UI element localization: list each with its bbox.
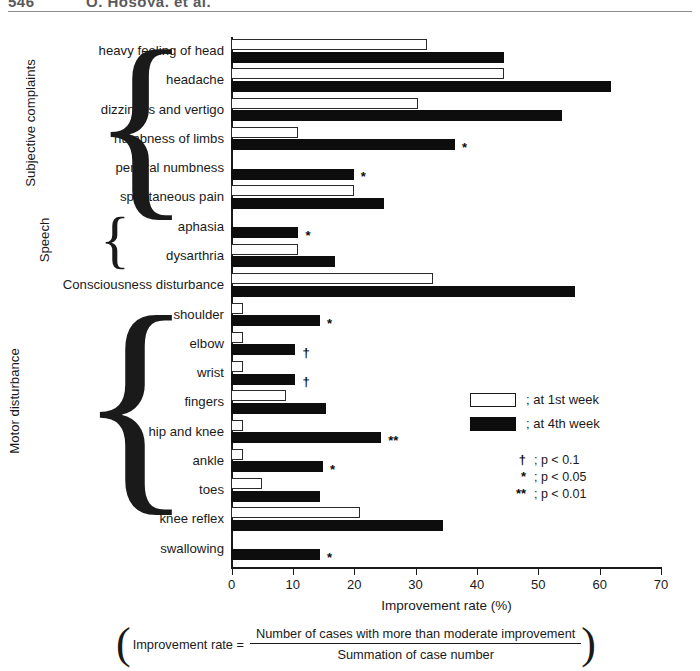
x-axis-tick-label: 50 — [531, 577, 545, 592]
bar-week1 — [231, 420, 243, 431]
x-axis-tick — [477, 568, 478, 575]
bar-week1 — [231, 68, 504, 79]
bar-week4 — [231, 315, 320, 326]
bar-week1 — [231, 390, 286, 401]
bar-row: * — [231, 156, 662, 185]
group-brace-icon: { — [92, 39, 108, 207]
formula-numerator: Number of cases with more than moderate … — [250, 626, 581, 643]
bar-week4 — [231, 52, 504, 63]
bar-week4 — [231, 520, 443, 531]
bar-week4 — [231, 139, 455, 150]
bar-row — [231, 478, 662, 507]
bar-week4 — [231, 286, 575, 297]
dagger-icon: † — [500, 452, 526, 467]
bar-week4 — [231, 432, 381, 443]
x-axis-tick-label: 0 — [228, 577, 235, 592]
significance-marker: † — [302, 346, 309, 359]
group-label: Motor disturbance — [7, 349, 22, 455]
bar-week1 — [231, 39, 427, 50]
significance-marker: * — [361, 170, 366, 183]
category-label: swallowing — [160, 540, 224, 555]
close-paren: ) — [581, 622, 596, 666]
bar-week1 — [231, 449, 243, 460]
bar-row: * — [231, 303, 662, 332]
x-axis-tick-label: 10 — [286, 577, 300, 592]
bar-week1 — [231, 303, 243, 314]
category-label: elbow — [190, 335, 224, 350]
figure-page: 546 O. Hosoya, et al. 010203040506070 Im… — [0, 0, 700, 671]
significance-marker: † — [302, 375, 309, 388]
bar-week4 — [231, 227, 298, 238]
bar-week4 — [231, 110, 562, 121]
bar-week1 — [231, 507, 360, 518]
bar-row: * — [231, 215, 662, 244]
bar-week1 — [231, 185, 354, 196]
bar-week4 — [231, 491, 320, 502]
significance-label-double-star: ; p < 0.01 — [534, 487, 586, 501]
x-axis-tick — [538, 568, 539, 575]
category-label: ankle — [192, 452, 224, 467]
significance-label-star: ; p < 0.05 — [534, 470, 586, 484]
bar-row — [231, 185, 662, 214]
bar-week1 — [231, 127, 298, 138]
group-label: Subjective complaints — [23, 59, 38, 187]
bar-week1 — [231, 244, 298, 255]
significance-legend: † ; p < 0.1 * ; p < 0.05 ** ; p < 0.01 — [500, 452, 586, 503]
bar-row — [231, 273, 662, 302]
bar-week1 — [231, 98, 418, 109]
group-label: Speech — [37, 218, 52, 263]
group-brace-icon: { — [78, 303, 94, 501]
solid-rect-swatch-icon — [470, 417, 516, 431]
legend-item-week4: ; at 4th week — [470, 416, 600, 431]
bar-week1 — [231, 361, 243, 372]
bar-week4 — [231, 461, 323, 472]
significance-marker: * — [462, 141, 467, 154]
asterisk-icon: * — [500, 469, 526, 484]
x-axis-tick — [354, 568, 355, 575]
significance-item-star: * ; p < 0.05 — [500, 469, 586, 484]
bar-row: * — [231, 537, 662, 566]
legend: ; at 1st week ; at 4th week — [470, 392, 600, 440]
open-rect-swatch-icon — [470, 393, 516, 407]
x-axis-tick — [232, 568, 233, 575]
formula-fraction: Number of cases with more than moderate … — [250, 626, 581, 662]
bar-week1 — [231, 332, 243, 343]
figure-caption-formula: ( Improvement rate = Number of cases wit… — [56, 622, 656, 666]
significance-label-dagger: ; p < 0.1 — [534, 453, 580, 467]
significance-item-dagger: † ; p < 0.1 — [500, 452, 586, 467]
significance-item-double-star: ** ; p < 0.01 — [500, 486, 586, 501]
bar-week4 — [231, 344, 295, 355]
x-axis-tick — [600, 568, 601, 575]
x-axis-tick-label: 40 — [470, 577, 484, 592]
bar-week1 — [231, 273, 433, 284]
group-brace-icon: { — [100, 215, 116, 266]
x-axis-tick-label: 30 — [408, 577, 422, 592]
significance-marker: ** — [388, 434, 398, 447]
open-paren: ( — [116, 622, 131, 666]
x-axis-title: Improvement rate (%) — [231, 598, 662, 613]
significance-marker: * — [327, 551, 332, 564]
x-axis-tick-label: 60 — [592, 577, 606, 592]
bar-row — [231, 244, 662, 273]
bar-row — [231, 98, 662, 127]
bar-row — [231, 507, 662, 536]
category-label: dysarthria — [166, 247, 224, 262]
x-axis-tick-label: 20 — [347, 577, 361, 592]
formula-denominator: Summation of case number — [331, 644, 499, 662]
bar-week4 — [231, 549, 320, 560]
legend-item-week1: ; at 1st week — [470, 392, 600, 407]
category-label: toes — [199, 482, 224, 497]
significance-marker: * — [327, 317, 332, 330]
bar-week4 — [231, 256, 335, 267]
significance-marker: * — [305, 229, 310, 242]
category-label: wrist — [197, 365, 224, 380]
bar-week1 — [231, 478, 262, 489]
bar-row: * — [231, 127, 662, 156]
bar-row: * — [231, 449, 662, 478]
formula-lead: Improvement rate = — [133, 637, 244, 652]
double-asterisk-icon: ** — [500, 486, 526, 501]
bar-row: † — [231, 332, 662, 361]
bar-week4 — [231, 374, 295, 385]
bar-chart: 010203040506070 Improvement rate (%) ***… — [0, 0, 700, 671]
legend-label-week1: ; at 1st week — [526, 392, 599, 407]
